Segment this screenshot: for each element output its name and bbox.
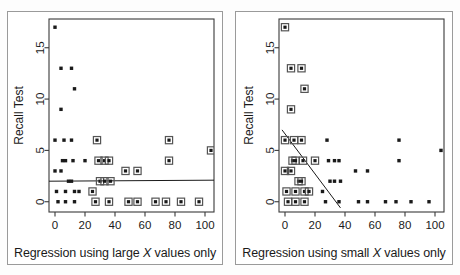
y-tick-label: 15 (264, 41, 276, 54)
x-tick-label: 60 (139, 219, 152, 231)
y-tick-label: 0 (264, 199, 276, 205)
caption-variable-x: X (143, 246, 151, 260)
caption-suffix: values only (381, 246, 446, 260)
y-tick-label: 10 (264, 93, 276, 106)
y-tick-label: 5 (264, 147, 276, 153)
x-tick-label: 40 (109, 219, 122, 231)
x-tick-label: 60 (369, 219, 382, 231)
x-tick-label: 20 (309, 219, 322, 231)
x-tick-label: 0 (282, 219, 288, 231)
x-tick-label: 100 (425, 219, 444, 231)
caption-variable-x: X (373, 246, 381, 260)
y-tick-label: 5 (34, 147, 46, 153)
x-tick-label: 100 (195, 219, 214, 231)
x-tick-label: 20 (79, 219, 92, 231)
y-tick-label: 0 (34, 199, 46, 205)
y-tick-label: 10 (34, 93, 46, 106)
y-tick-label: 15 (34, 41, 46, 54)
panel-large-x-values: 020406080100051015Recall Test Regression… (7, 11, 223, 265)
caption-subset-word: large (112, 246, 139, 260)
panel-small-x-values: 020406080100051015Recall Test Regression… (235, 11, 453, 265)
caption-prefix: Regression using (14, 246, 112, 260)
y-axis-title: Recall Test (12, 86, 26, 145)
panel-caption-large: Regression using large X values only (8, 246, 222, 260)
x-tick-label: 80 (169, 219, 182, 231)
x-tick-label: 80 (399, 219, 412, 231)
scatter-plot-small-x: 020406080100051015Recall Test (236, 12, 452, 264)
scatter-plot-large-x: 020406080100051015Recall Test (8, 12, 222, 264)
x-tick-label: 0 (52, 219, 58, 231)
caption-prefix: Regression using (242, 246, 340, 260)
x-tick-label: 40 (339, 219, 352, 231)
caption-suffix: values only (151, 246, 216, 260)
panel-caption-small: Regression using small X values only (236, 246, 452, 260)
caption-subset-word: small (341, 246, 370, 260)
figure-two-panel-scatter: 020406080100051015Recall Test Regression… (0, 0, 460, 275)
y-axis-title: Recall Test (242, 86, 256, 145)
